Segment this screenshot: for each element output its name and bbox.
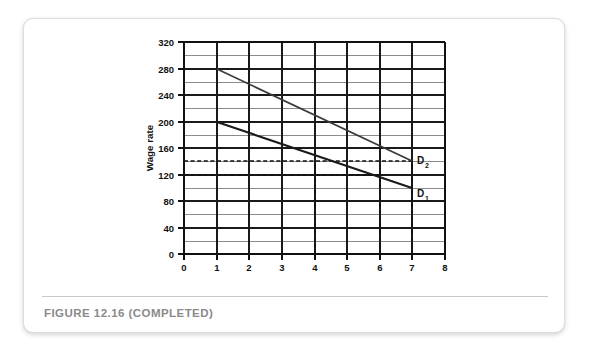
x-tick-label: 7 xyxy=(409,262,414,273)
curve-label-d2-subscript: 2 xyxy=(425,162,429,169)
y-tick-label: 80 xyxy=(163,196,174,207)
x-tick-label: 6 xyxy=(377,262,382,273)
x-tick-label: 0 xyxy=(181,262,186,273)
chart-region: 0 40 80 120 160 200 240 280 320 0 1 2 3 … xyxy=(24,19,566,281)
wage-rate-demand-chart: 0 40 80 120 160 200 240 280 320 0 1 2 3 … xyxy=(24,19,566,281)
curve-label-d1-letter: D xyxy=(417,188,424,199)
figure-caption: FIGURE 12.16 (COMPLETED) xyxy=(44,307,213,319)
y-tick-label: 120 xyxy=(158,170,174,181)
annotation-dashed-lines xyxy=(184,161,412,254)
x-tick-label: 1 xyxy=(214,262,220,273)
x-tick-label: 2 xyxy=(246,262,251,273)
curve-label-d2: D 2 xyxy=(417,155,429,169)
curve-label-d1-subscript: 1 xyxy=(425,195,429,202)
x-tick-label: 5 xyxy=(344,262,350,273)
y-tick-label: 320 xyxy=(158,37,174,48)
curve-label-d1: D 1 xyxy=(417,188,429,202)
x-axis-title: Number of workers xyxy=(270,280,360,281)
y-tick-label: 160 xyxy=(158,143,174,154)
y-tick-label: 200 xyxy=(158,117,174,128)
y-tick-label: 40 xyxy=(163,223,174,234)
x-tick-label: 4 xyxy=(312,262,318,273)
figure-card: 0 40 80 120 160 200 240 280 320 0 1 2 3 … xyxy=(23,18,565,333)
y-tick-label: 240 xyxy=(158,90,174,101)
y-tick-labels: 0 40 80 120 160 200 240 280 320 xyxy=(158,37,174,260)
y-tick-label: 0 xyxy=(169,249,174,260)
x-tick-label: 8 xyxy=(442,262,447,273)
y-axis-title: Wage rate xyxy=(144,124,155,171)
x-tick-labels: 0 1 2 3 4 5 6 7 8 xyxy=(181,262,447,273)
y-tick-label: 280 xyxy=(158,64,174,75)
caption-divider xyxy=(42,296,548,297)
curve-label-d2-letter: D xyxy=(417,155,424,166)
x-tick-label: 3 xyxy=(279,262,284,273)
